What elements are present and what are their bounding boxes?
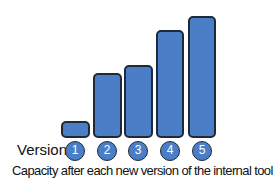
version-badge-2: 2 xyxy=(97,141,117,161)
bar-version-3 xyxy=(124,65,153,138)
bar-version-2 xyxy=(93,73,122,138)
bar-version-4 xyxy=(156,30,184,138)
version-badge-4: 4 xyxy=(160,141,180,161)
bar-version-1 xyxy=(61,121,90,138)
version-badge-3: 3 xyxy=(128,141,148,161)
caption: Capacity after each new version of the i… xyxy=(12,163,273,178)
axis-label-version: Version xyxy=(17,141,67,158)
version-badge-1: 1 xyxy=(65,141,85,161)
version-badge-5: 5 xyxy=(192,141,212,161)
bar-version-5 xyxy=(188,16,216,138)
